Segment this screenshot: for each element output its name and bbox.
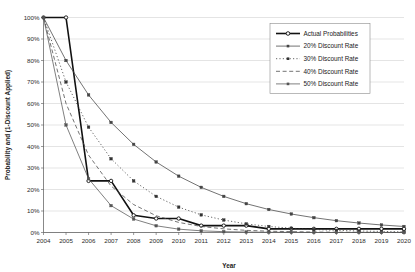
x-tick-label: 2020: [397, 237, 411, 244]
y-tick-label: 40%: [27, 143, 40, 150]
data-point: [358, 231, 361, 234]
legend-marker: [286, 32, 290, 36]
legend: Actual Probabilities20% Discount Rate30%…: [270, 24, 370, 94]
data-point: [155, 161, 158, 164]
x-tick-label: 2007: [104, 237, 118, 244]
x-tick-label: 2016: [307, 237, 321, 244]
data-point: [313, 228, 316, 231]
data-point: [177, 175, 180, 178]
data-point: [403, 231, 406, 234]
data-point: [403, 225, 406, 228]
data-point: [245, 231, 248, 234]
data-point: [177, 217, 180, 220]
data-point: [268, 231, 271, 234]
data-point: [154, 217, 157, 220]
legend-label: 40% Discount Rate: [304, 68, 359, 75]
x-tick-labels: 2004200520062007200820092010201120122013…: [37, 233, 412, 244]
data-point: [109, 179, 112, 182]
data-point: [65, 81, 68, 84]
legend-label: Actual Probabilities: [304, 30, 358, 37]
data-point: [245, 223, 248, 226]
x-tick-label: 2008: [127, 237, 141, 244]
data-point: [177, 206, 180, 209]
data-point: [132, 180, 135, 183]
data-point: [64, 16, 67, 19]
data-point: [200, 230, 203, 233]
x-tick-label: 2011: [195, 237, 209, 244]
data-point: [290, 213, 293, 216]
data-point: [380, 231, 383, 234]
data-point: [110, 204, 113, 207]
data-point: [110, 121, 113, 124]
data-point: [268, 225, 271, 228]
chart-container: 0%10%20%30%40%50%60%70%80%90%100% 200420…: [0, 0, 415, 272]
y-tick-label: 60%: [27, 100, 40, 107]
data-point: [87, 126, 90, 129]
data-point: [358, 222, 361, 225]
line-chart: 0%10%20%30%40%50%60%70%80%90%100% 200420…: [0, 0, 415, 272]
data-point: [42, 16, 45, 19]
legend-label: 30% Discount Rate: [304, 55, 359, 62]
data-point: [87, 94, 90, 97]
data-point: [222, 230, 225, 233]
data-point: [132, 143, 135, 146]
data-point: [313, 216, 316, 219]
data-point: [222, 195, 225, 198]
data-point: [155, 224, 158, 227]
legend-marker: [287, 45, 290, 48]
x-tick-label: 2019: [375, 237, 389, 244]
y-axis-title: Probability and (1-Discount Applied): [4, 70, 12, 180]
data-point: [268, 208, 271, 211]
data-point: [132, 214, 135, 217]
x-tick-label: 2017: [330, 237, 344, 244]
x-tick-label: 2015: [284, 237, 298, 244]
data-point: [65, 59, 68, 62]
data-point: [200, 214, 203, 217]
x-tick-label: 2012: [217, 237, 231, 244]
y-tick-labels: 0%10%20%30%40%50%60%70%80%90%100%: [24, 14, 44, 236]
legend-label: 50% Discount Rate: [304, 80, 359, 87]
x-tick-label: 2005: [59, 237, 73, 244]
data-point: [65, 124, 68, 127]
x-tick-label: 2006: [82, 237, 96, 244]
data-point: [290, 227, 293, 230]
y-tick-label: 90%: [27, 35, 40, 42]
y-tick-label: 70%: [27, 78, 40, 85]
data-point: [313, 231, 316, 234]
data-point: [177, 228, 180, 231]
data-point: [335, 231, 338, 234]
y-tick-label: 50%: [27, 121, 40, 128]
x-tick-label: 2004: [37, 237, 51, 244]
y-tick-label: 20%: [27, 186, 40, 193]
y-tick-label: 0%: [31, 229, 40, 236]
data-point: [222, 219, 225, 222]
x-tick-label: 2013: [239, 237, 253, 244]
legend-label: 20% Discount Rate: [304, 42, 359, 49]
x-tick-label: 2018: [352, 237, 366, 244]
data-point: [290, 231, 293, 234]
x-axis-title: Year: [222, 262, 236, 269]
data-point: [200, 186, 203, 189]
data-point: [380, 224, 383, 227]
data-point: [335, 219, 338, 222]
x-tick-label: 2014: [262, 237, 276, 244]
x-tick-label: 2010: [172, 237, 186, 244]
data-point: [245, 202, 248, 205]
legend-marker: [287, 83, 290, 86]
legend-marker: [287, 57, 290, 60]
y-tick-label: 30%: [27, 164, 40, 171]
x-tick-label: 2009: [149, 237, 163, 244]
data-point: [155, 195, 158, 198]
y-tick-label: 80%: [27, 57, 40, 64]
y-tick-label: 100%: [24, 14, 40, 21]
data-point: [87, 177, 90, 180]
data-point: [110, 157, 113, 160]
data-point: [222, 224, 225, 227]
y-tick-label: 10%: [27, 207, 40, 214]
data-point: [132, 218, 135, 221]
